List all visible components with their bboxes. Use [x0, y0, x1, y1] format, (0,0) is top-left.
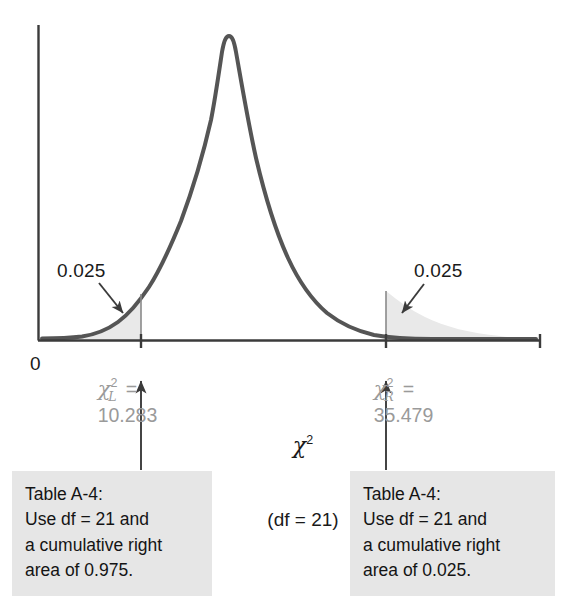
left-callout-line-4: area of 0.975. — [25, 558, 199, 583]
left-prob-pointer-arrow — [99, 283, 123, 313]
right-callout-line-2: Use df = 21 and — [363, 507, 542, 532]
chi-subscript-right: R — [384, 389, 393, 404]
left-critical-value: 10.283 — [98, 404, 158, 426]
axis-chi-symbol: χ — [293, 433, 306, 458]
axis-caption-symbol-line: χ2 — [243, 432, 363, 460]
right-callout-line-1: Table A-4: — [363, 482, 542, 507]
right-critical-value: 35.479 — [374, 404, 434, 426]
right-equals-sign: = — [403, 378, 414, 400]
left-callout-line-2: Use df = 21 and — [25, 507, 199, 532]
left-tail-probability-label: 0.025 — [57, 259, 106, 283]
axis-origin-label: 0 — [30, 352, 41, 376]
axis-df-label: (df = 21) — [243, 508, 363, 532]
chi-subscript-left: L — [108, 389, 116, 404]
left-callout-line-1: Table A-4: — [25, 482, 199, 507]
right-callout-line-4: area of 0.025. — [363, 558, 542, 583]
right-tail-shaded-region — [386, 291, 540, 340]
right-callout-line-3: a cumulative right — [363, 533, 542, 558]
axis-caption: χ2 (df = 21) — [243, 384, 363, 579]
right-tail-probability-label: 0.025 — [414, 259, 463, 283]
right-prob-pointer-arrow — [402, 284, 424, 313]
chi-square-distribution-figure: 0.025 0.025 0 χ2L= 10.283 χ2R= 35.479 χ2… — [0, 0, 578, 614]
right-critical-value-label: χ2R= 35.479 — [352, 352, 433, 451]
left-critical-value-label: χ2L= 10.283 — [76, 352, 157, 451]
left-callout-box: Table A-4: Use df = 21 and a cumulative … — [12, 471, 212, 596]
right-callout-box: Table A-4: Use df = 21 and a cumulative … — [350, 471, 555, 596]
axis-chi-superscript: 2 — [306, 433, 313, 447]
chi-square-density-curve — [42, 36, 536, 339]
left-equals-sign: = — [126, 378, 137, 400]
left-callout-line-3: a cumulative right — [25, 533, 199, 558]
